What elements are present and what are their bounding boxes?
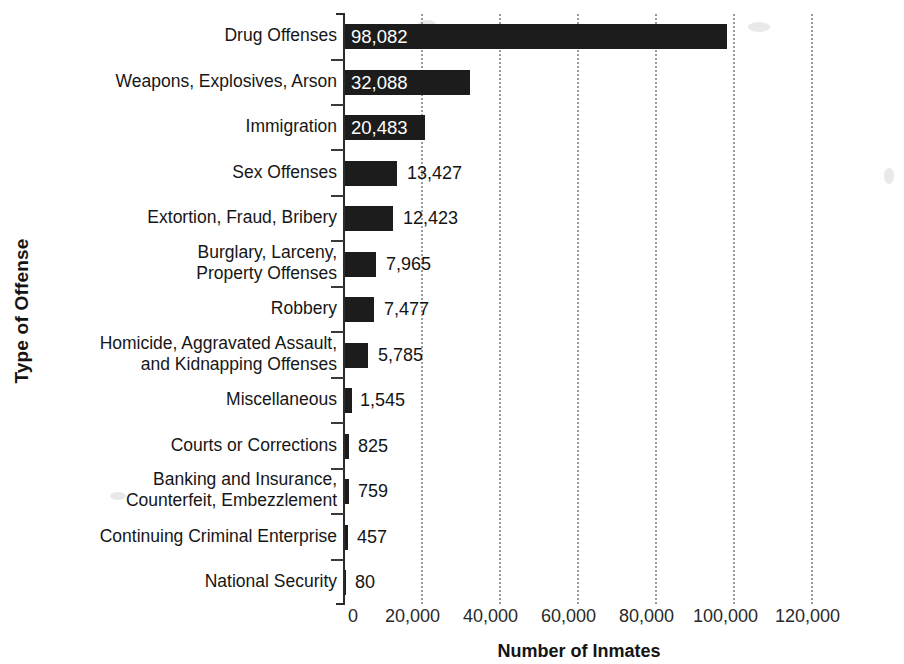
bar-continuing-criminal-enterprise: [345, 525, 348, 550]
x-tick-label-100000: 100,000: [693, 606, 758, 627]
y-axis-tick: [331, 559, 344, 561]
y-axis-tick: [331, 104, 344, 106]
gridline-100000: [733, 14, 735, 604]
bar-value-label: 98,082: [351, 24, 408, 49]
y-axis-tick: [331, 286, 344, 288]
bar-value-label: 7,477: [384, 297, 429, 322]
bar-value-label: 5,785: [378, 343, 423, 368]
gridline-80000: [655, 14, 657, 604]
bar-value-label: 32,088: [351, 70, 408, 95]
category-label: Immigration: [246, 116, 337, 137]
y-axis-tick: [331, 377, 344, 379]
x-tick-label-80000: 80,000: [619, 606, 674, 627]
bar-burglary-larceny-property: [345, 252, 376, 277]
y-axis-cap-bottom: [336, 603, 345, 605]
category-label: Sex Offenses: [232, 162, 337, 183]
bar-value-label: 12,423: [403, 206, 458, 231]
y-axis-tick: [331, 59, 344, 61]
category-label: Courts or Corrections: [171, 435, 337, 456]
y-axis-tick: [331, 149, 344, 151]
category-label: National Security: [205, 571, 337, 592]
bar-extortion-fraud-bribery: [345, 206, 393, 231]
bar-courts-or-corrections: [345, 434, 349, 459]
bar-national-security: [345, 570, 346, 595]
gridline-60000: [577, 14, 579, 604]
x-tick-label-40000: 40,000: [463, 606, 518, 627]
bar-miscellaneous: [345, 388, 352, 413]
y-axis-cap-top: [336, 13, 345, 15]
y-axis-tick: [331, 195, 344, 197]
category-label: Miscellaneous: [226, 389, 337, 410]
scan-artifact: [884, 168, 894, 184]
gridline-120000: [811, 14, 813, 604]
gridline-40000: [499, 14, 501, 604]
bar-chart: Type of Offense Drug Offenses 98,082 Wea…: [0, 0, 904, 664]
x-tick-label-0: 0: [348, 606, 358, 627]
bar-value-label: 80: [355, 570, 375, 595]
y-axis-tick: [331, 422, 344, 424]
bar-value-label: 759: [358, 479, 388, 504]
category-label: Drug Offenses: [224, 25, 337, 46]
bar-robbery: [345, 297, 374, 322]
category-label: Homicide, Aggravated Assault, and Kidnap…: [100, 333, 337, 375]
bar-value-label: 1,545: [360, 388, 405, 413]
bar-value-label: 7,965: [386, 252, 431, 277]
bar-banking-insurance-counterfeit: [345, 479, 349, 504]
x-axis-title: Number of Inmates: [344, 641, 814, 662]
bar-sex-offenses: [345, 161, 397, 186]
bar-value-label: 825: [358, 434, 388, 459]
category-label: Weapons, Explosives, Arson: [116, 71, 337, 92]
x-tick-label-20000: 20,000: [385, 606, 440, 627]
category-label: Banking and Insurance, Counterfeit, Embe…: [126, 469, 337, 511]
bar-value-label: 20,483: [351, 115, 408, 140]
category-label: Continuing Criminal Enterprise: [100, 526, 337, 547]
category-label: Robbery: [271, 298, 337, 319]
y-axis-tick: [331, 513, 344, 515]
y-axis-title: Type of Offense: [11, 201, 33, 421]
x-tick-label-60000: 60,000: [541, 606, 596, 627]
category-label: Extortion, Fraud, Bribery: [147, 207, 337, 228]
bar-value-label: 457: [357, 525, 387, 550]
bar-homicide-assault-kidnapping: [345, 343, 368, 368]
bar-value-label: 13,427: [407, 161, 462, 186]
scan-artifact: [110, 492, 126, 500]
x-tick-label-120000: 120,000: [775, 606, 840, 627]
category-label: Burglary, Larceny, Property Offenses: [196, 242, 337, 284]
